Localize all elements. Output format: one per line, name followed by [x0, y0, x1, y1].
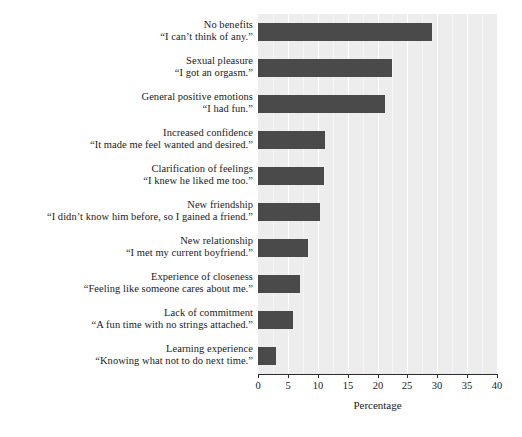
category-label: Lack of commitment“A fun time with no st… [1, 307, 253, 331]
axis-tick [467, 374, 468, 378]
category-label: Increased confidence“It made me feel wan… [1, 127, 253, 151]
category-label: New relationship“I met my current boyfri… [1, 235, 253, 259]
axis-tick [437, 374, 438, 378]
category-label-column: No benefits“I can’t think of any.”Sexual… [0, 14, 256, 374]
axis-tick-label: 30 [422, 380, 452, 391]
category-label: General positive emotions“I had fun.” [1, 91, 253, 115]
gridline-minor [392, 14, 393, 374]
category-name: Increased confidence [1, 127, 253, 139]
category-label: Learning experience“Knowing what not to … [1, 343, 253, 367]
bar [258, 239, 308, 257]
bar [258, 95, 385, 113]
category-label: No benefits“I can’t think of any.” [1, 19, 253, 43]
category-label: New friendship“I didn’t know him before,… [1, 199, 253, 223]
category-name: New friendship [1, 199, 253, 211]
bar-chart-figure: No benefits“I can’t think of any.”Sexual… [0, 0, 522, 437]
category-name: No benefits [1, 19, 253, 31]
category-name: General positive emotions [1, 91, 253, 103]
axis-tick [497, 374, 498, 378]
axis-tick-label: 0 [243, 380, 273, 391]
gridline-minor [482, 14, 483, 374]
bar [258, 167, 324, 185]
bar [258, 347, 276, 365]
bar [258, 23, 432, 41]
category-quote: “Knowing what not to do next time.” [1, 355, 253, 367]
category-name: Lack of commitment [1, 307, 253, 319]
category-quote: “I didn’t know him before, so I gained a… [1, 211, 253, 223]
category-quote: “I met my current boyfriend.” [1, 247, 253, 259]
axis-tick [318, 374, 319, 378]
category-label: Sexual pleasure“I got an orgasm.” [1, 55, 253, 79]
category-quote: “I knew he liked me too.” [1, 175, 253, 187]
category-name: Learning experience [1, 343, 253, 355]
category-quote: “It made me feel wanted and desired.” [1, 139, 253, 151]
axis-tick-label: 40 [482, 380, 512, 391]
plot-area [258, 14, 497, 374]
gridline [407, 14, 408, 374]
category-quote: “Feeling like someone cares about me.” [1, 283, 253, 295]
axis-tick-label: 5 [273, 380, 303, 391]
category-label: Experience of closeness“Feeling like som… [1, 271, 253, 295]
axis-tick-label: 25 [392, 380, 422, 391]
gridline-minor [422, 14, 423, 374]
category-name: New relationship [1, 235, 253, 247]
gridline [437, 14, 438, 374]
axis-tick [407, 374, 408, 378]
category-name: Sexual pleasure [1, 55, 253, 67]
category-quote: “A fun time with no strings attached.” [1, 319, 253, 331]
category-quote: “I can’t think of any.” [1, 31, 253, 43]
gridline [467, 14, 468, 374]
axis-tick-label: 10 [303, 380, 333, 391]
category-name: Experience of closeness [1, 271, 253, 283]
bar [258, 203, 320, 221]
axis-tick [258, 374, 259, 378]
category-quote: “I got an orgasm.” [1, 67, 253, 79]
axis-tick-label: 35 [452, 380, 482, 391]
x-axis-title: Percentage [258, 399, 497, 411]
axis-tick [378, 374, 379, 378]
axis-tick-label: 15 [333, 380, 363, 391]
axis-tick [348, 374, 349, 378]
axis-tick [288, 374, 289, 378]
bar [258, 131, 325, 149]
bar [258, 311, 293, 329]
gridline-minor [452, 14, 453, 374]
axis-tick-label: 20 [363, 380, 393, 391]
category-quote: “I had fun.” [1, 103, 253, 115]
category-label: Clarification of feelings“I knew he like… [1, 163, 253, 187]
bar [258, 275, 300, 293]
category-name: Clarification of feelings [1, 163, 253, 175]
bar [258, 59, 392, 77]
